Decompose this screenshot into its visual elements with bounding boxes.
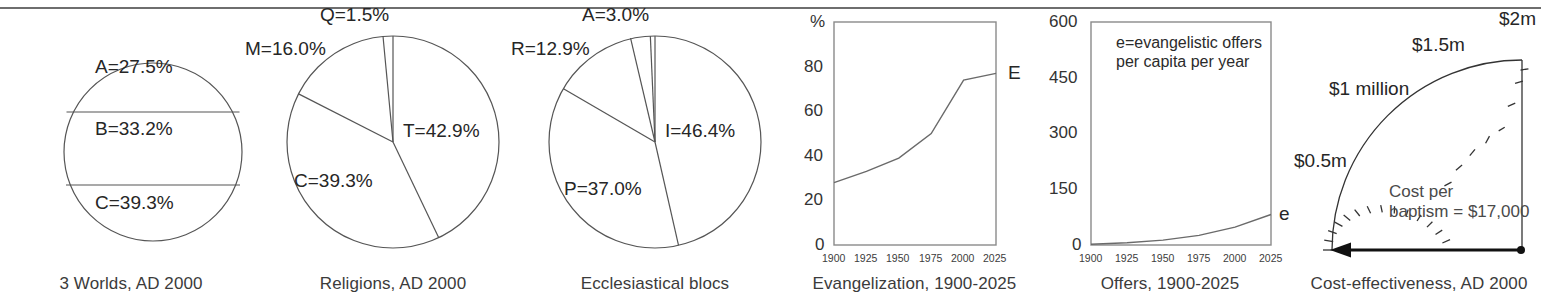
- y-tick-60: 60: [804, 101, 823, 121]
- x-tick-1900: 1900: [1079, 252, 1102, 264]
- evangelization-line-chart: [786, 10, 1043, 270]
- x-tick-2000: 2000: [951, 252, 974, 264]
- x-tick-1925: 1925: [854, 252, 877, 264]
- x-tick-1975: 1975: [1187, 252, 1210, 264]
- pie-boundary-m-q: [383, 36, 393, 142]
- band-label-c: C=39.3%: [95, 192, 174, 214]
- series-line-e: [1091, 215, 1271, 245]
- y-tick-150: 150: [1049, 179, 1077, 199]
- panel-evangelization: % 80 60 40 20 0 1900 1925 1950 1975 2000…: [786, 0, 1043, 302]
- gauge-needle-arrowhead: [1330, 243, 1351, 258]
- y-tick-80: 80: [804, 57, 823, 77]
- y-tick-300: 300: [1049, 123, 1077, 143]
- pie-label-r: R=12.9%: [511, 38, 590, 60]
- panel-ecclesiastical-blocs: A=3.0% R=12.9% I=46.4% P=37.0% Ecclesias…: [524, 0, 786, 302]
- panel-caption-ecclesiastical-blocs: Ecclesiastical blocs: [524, 274, 786, 294]
- band-label-a: A=27.5%: [95, 56, 173, 78]
- band-label-b: B=33.2%: [95, 118, 173, 140]
- chart-annotation-line-1: e=evangelistic offers: [1116, 33, 1262, 52]
- panel-caption-three-worlds: 3 Worlds, AD 2000: [0, 274, 262, 294]
- pie-label-p: P=37.0%: [564, 178, 642, 200]
- x-tick-2025: 2025: [1259, 252, 1282, 264]
- gauge-scale-label-0-5m: $0.5m: [1294, 150, 1347, 172]
- plot-frame: [834, 22, 996, 245]
- panel-caption-offers: Offers, 1900-2025: [1043, 274, 1297, 294]
- panel-caption-religions: Religions, AD 2000: [262, 274, 524, 294]
- pie-boundary-t-c: [393, 142, 439, 238]
- series-end-label-e: e: [1279, 203, 1290, 225]
- circle-outline: [64, 63, 242, 241]
- pie-label-t: T=42.9%: [403, 120, 480, 142]
- pie-boundary-p-r: [563, 89, 655, 142]
- y-axis-unit-label: %: [810, 12, 825, 32]
- panel-caption-cost-effectiveness: Cost-effectiveness, AD 2000: [1297, 274, 1541, 294]
- y-tick-600: 600: [1049, 12, 1077, 32]
- pie-boundary-i-p: [655, 142, 679, 245]
- y-tick-20: 20: [804, 190, 823, 210]
- x-tick-1925: 1925: [1115, 252, 1138, 264]
- series-end-label-e: E: [1008, 62, 1021, 84]
- pie-label-i: I=46.4%: [665, 120, 735, 142]
- chart-annotation-line-2: per capita per year: [1116, 52, 1249, 71]
- three-worlds-circle-chart: [0, 10, 262, 272]
- panel-religions: Q=1.5% M=16.0% T=42.9% C=39.3% Religions…: [262, 0, 524, 302]
- x-tick-2000: 2000: [1223, 252, 1246, 264]
- panel-offers: 600 450 300 150 0 1900 1925 1950 1975 20…: [1043, 0, 1297, 302]
- y-tick-450: 450: [1049, 68, 1077, 88]
- x-tick-2025: 2025: [983, 252, 1006, 264]
- x-tick-1975: 1975: [919, 252, 942, 264]
- gauge-readout-line-2: baptism = $17,000: [1389, 202, 1529, 221]
- series-line-e-path: [834, 73, 996, 182]
- gauge-scale-label-1-5m: $1.5m: [1412, 34, 1465, 56]
- pie-label-m: M=16.0%: [245, 38, 326, 60]
- gauge-scale-label-2m: $2m: [1499, 8, 1536, 30]
- x-tick-1950: 1950: [1151, 252, 1174, 264]
- x-tick-1900: 1900: [822, 252, 845, 264]
- pie-label-c: C=39.3%: [294, 170, 373, 192]
- y-tick-40: 40: [804, 146, 823, 166]
- panel-three-worlds: A=27.5% B=33.2% C=39.3% 3 Worlds, AD 200…: [0, 0, 262, 302]
- pie-label-a: A=3.0%: [582, 4, 649, 26]
- panel-cost-effectiveness: $2m $1.5m $1 million $0.5m Cost per bapt…: [1297, 0, 1541, 302]
- gauge-pivot-dot: [1517, 246, 1525, 254]
- figure-strip: A=27.5% B=33.2% C=39.3% 3 Worlds, AD 200…: [0, 0, 1541, 302]
- gauge-scale-label-1m: $1 million: [1329, 78, 1409, 100]
- pie-label-q: Q=1.5%: [320, 4, 389, 26]
- panel-caption-evangelization: Evangelization, 1900-2025: [786, 274, 1043, 294]
- x-tick-1950: 1950: [886, 252, 909, 264]
- gauge-readout-line-1: Cost per: [1389, 182, 1453, 201]
- pie-boundary-c-m: [299, 94, 393, 142]
